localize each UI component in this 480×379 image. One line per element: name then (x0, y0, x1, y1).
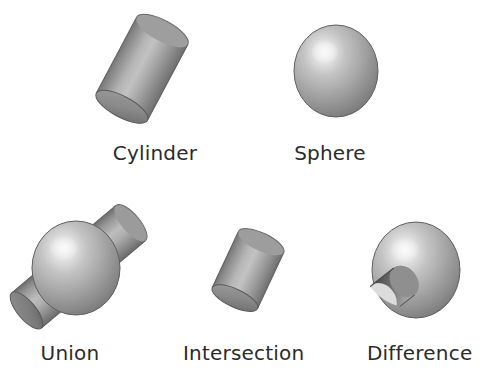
shape-intersection (200, 220, 296, 320)
label-sphere: Sphere (292, 143, 368, 163)
csg-figure: Cylinder (0, 0, 480, 379)
difference-icon (368, 218, 468, 322)
label-cylinder: Cylinder (112, 143, 198, 163)
shape-union (8, 198, 148, 338)
label-difference: Difference (367, 343, 467, 363)
cylinder-icon (78, 0, 208, 135)
sphere-icon (292, 22, 380, 120)
shape-cylinder (78, 0, 208, 135)
label-intersection: Intersection (183, 343, 303, 363)
union-icon (8, 198, 148, 338)
shape-sphere (292, 22, 380, 120)
intersection-icon (200, 220, 296, 320)
shape-difference (368, 218, 468, 322)
label-union: Union (36, 343, 104, 363)
